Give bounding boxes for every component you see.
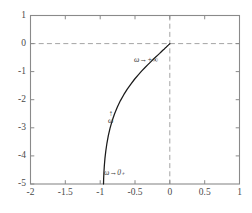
- y-tick-label: -3: [0, 123, 26, 133]
- omega-direction-annotation: ↑ ω: [108, 110, 113, 125]
- y-tick-label: 1: [0, 11, 26, 21]
- x-tick-label: -1: [96, 188, 104, 198]
- x-tick-label: -0.5: [127, 188, 142, 198]
- x-tick-label: 0.5: [199, 188, 211, 198]
- plot-background: [31, 16, 240, 185]
- y-tick-label: -5: [0, 179, 26, 189]
- x-tick-label: 0: [167, 188, 172, 198]
- omega-symbol: ω: [108, 117, 113, 125]
- y-tick-label: -2: [0, 95, 26, 105]
- nyquist-plot-figure: -2 -1.5 -1 -0.5 0 0.5 1 1 0 -1 -2 -3 -4 …: [0, 0, 252, 213]
- x-tick-label: 1: [237, 188, 242, 198]
- x-tick-label: -1.5: [58, 188, 73, 198]
- omega-to-infinity-annotation: ω→+∞: [134, 56, 158, 64]
- x-tick-label: -2: [27, 188, 35, 198]
- y-tick-label: -1: [0, 67, 26, 77]
- plot-canvas: [0, 0, 252, 213]
- omega-to-zero-plus-annotation: ω→0₊: [104, 169, 125, 177]
- y-tick-label: 0: [0, 39, 26, 49]
- y-tick-label: -4: [0, 151, 26, 161]
